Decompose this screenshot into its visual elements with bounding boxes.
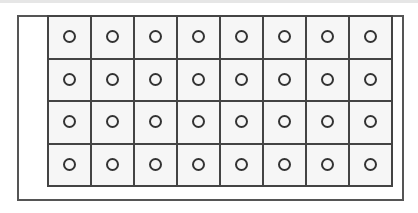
grid-cell: [47, 15, 92, 60]
grid-cell: [305, 58, 350, 103]
circle-icon: [192, 158, 205, 171]
grid-cell: [219, 58, 264, 103]
circle-icon: [192, 30, 205, 43]
grid-cell: [90, 100, 135, 145]
grid-cell: [219, 100, 264, 145]
grid-cell: [133, 58, 178, 103]
grid-cell: [348, 100, 393, 145]
cell-grid: [47, 15, 393, 187]
circle-icon: [235, 73, 248, 86]
grid-cell: [176, 100, 221, 145]
grid-cell: [133, 143, 178, 188]
grid-cell: [176, 15, 221, 60]
circle-icon: [321, 30, 334, 43]
circle-icon: [278, 158, 291, 171]
top-divider: [0, 0, 418, 3]
circle-icon: [278, 73, 291, 86]
grid-cell: [176, 143, 221, 188]
grid-cell: [348, 143, 393, 188]
circle-icon: [278, 30, 291, 43]
grid-cell: [47, 100, 92, 145]
grid-cell: [348, 58, 393, 103]
grid-cell: [262, 100, 307, 145]
grid-cell: [47, 58, 92, 103]
grid-cell: [348, 15, 393, 60]
grid-cell: [90, 58, 135, 103]
circle-icon: [321, 73, 334, 86]
circle-icon: [63, 115, 76, 128]
grid-cell: [262, 15, 307, 60]
circle-icon: [235, 158, 248, 171]
grid-cell: [133, 100, 178, 145]
circle-icon: [278, 115, 291, 128]
grid-cell: [90, 143, 135, 188]
grid-cell: [90, 15, 135, 60]
grid-cell: [305, 143, 350, 188]
circle-icon: [321, 115, 334, 128]
circle-icon: [106, 30, 119, 43]
circle-icon: [364, 115, 377, 128]
grid-cell: [47, 143, 92, 188]
circle-icon: [192, 115, 205, 128]
circle-icon: [235, 30, 248, 43]
circle-icon: [149, 73, 162, 86]
circle-icon: [149, 158, 162, 171]
grid-cell: [219, 15, 264, 60]
grid-cell: [305, 15, 350, 60]
grid-cell: [133, 15, 178, 60]
grid-cell: [305, 100, 350, 145]
circle-icon: [106, 73, 119, 86]
circle-icon: [364, 30, 377, 43]
circle-icon: [106, 158, 119, 171]
circle-icon: [149, 30, 162, 43]
circle-icon: [63, 30, 76, 43]
circle-icon: [106, 115, 119, 128]
circle-icon: [364, 158, 377, 171]
circle-icon: [63, 158, 76, 171]
circle-icon: [192, 73, 205, 86]
circle-icon: [364, 73, 377, 86]
grid-cell: [176, 58, 221, 103]
grid-cell: [262, 58, 307, 103]
grid-cell: [262, 143, 307, 188]
circle-icon: [149, 115, 162, 128]
circle-icon: [235, 115, 248, 128]
circle-icon: [321, 158, 334, 171]
grid-cell: [219, 143, 264, 188]
circle-icon: [63, 73, 76, 86]
